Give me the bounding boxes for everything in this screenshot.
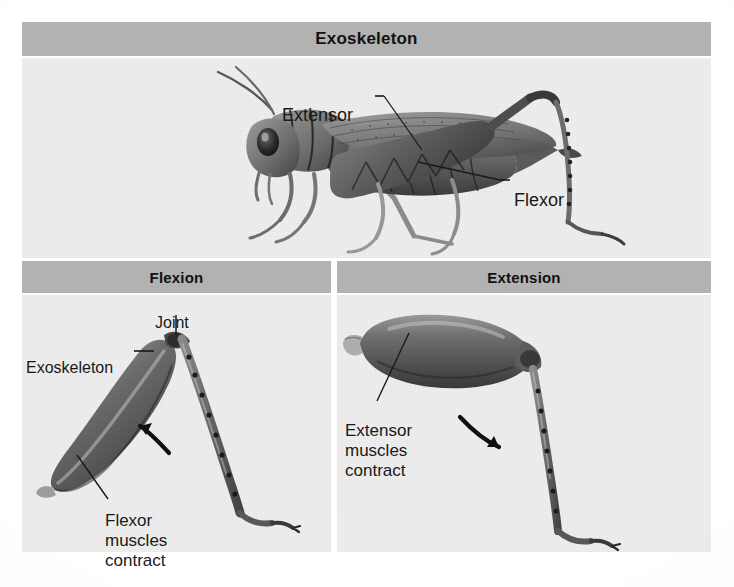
label-exoskeleton-flexion: Exoskeleton [26,340,113,377]
flexed-leg-illustration [22,295,331,552]
panel-header-exoskeleton-label: Exoskeleton [315,29,417,49]
panel-body-flexion: Joint Exoskeleton Flexor muscles contrac… [22,295,331,552]
figure-exoskeleton-muscle-action: Exoskeleton [0,0,734,587]
panel-body-extension: Extensor muscles contract [337,295,711,552]
label-extensor: Extensor [282,84,353,126]
panel-body-exoskeleton: Extensor Flexor [22,58,711,258]
panel-header-extension-label: Extension [487,269,560,286]
panel-header-extension: Extension [337,261,711,293]
label-joint: Joint [155,295,189,332]
panel-header-exoskeleton: Exoskeleton [22,22,711,56]
panel-header-flexion: Flexion [22,261,331,293]
panel-header-flexion-label: Flexion [150,269,204,286]
label-extensor-muscles-contract: Extensor muscles contract [345,401,412,481]
label-flexor: Flexor [514,169,564,211]
label-flexor-muscles-contract: Flexor muscles contract [105,491,167,571]
grasshopper-lateral-illustration [22,58,711,258]
